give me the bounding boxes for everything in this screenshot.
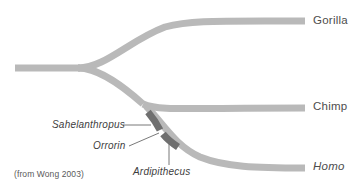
taxon-label-ardipithecus: Ardipithecus xyxy=(133,166,190,177)
tip-label-gorilla: Gorilla xyxy=(313,14,348,26)
branch-chimp-human-stem xyxy=(78,68,143,104)
taxon-label-sahelanthropus: Sahelanthropus xyxy=(52,119,125,130)
source-note: (from Wong 2003) xyxy=(14,169,84,179)
leader-line-orrorin xyxy=(129,133,159,146)
taxon-label-orrorin: Orrorin xyxy=(93,140,126,151)
branch-gorilla xyxy=(78,21,305,68)
tip-label-homo: Homo xyxy=(313,160,345,172)
branch-chimp xyxy=(143,104,305,109)
tip-label-chimp: Chimp xyxy=(313,100,347,112)
phylogenetic-tree-graphic xyxy=(0,0,355,192)
figure-canvas: Gorilla Chimp Homo Sahelanthropus Orrori… xyxy=(0,0,355,192)
